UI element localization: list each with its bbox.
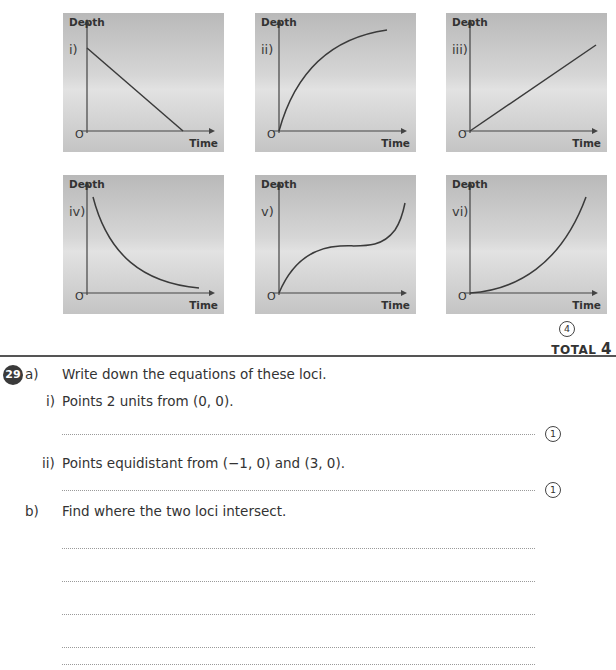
graph-label: ii) (261, 42, 273, 57)
graph-label: iv) (69, 204, 85, 219)
graph-label: i) (69, 42, 78, 57)
y-axis-label: Depth (69, 178, 105, 190)
y-axis-label: Depth (69, 16, 105, 28)
x-axis-label: Time (381, 137, 410, 149)
part-b-text: Find where the two loci intersect. (62, 503, 286, 519)
answer-line-b-1[interactable] (62, 548, 535, 549)
x-axis-label: Time (381, 299, 410, 311)
graph-panel-i: Depth i) O Time (63, 13, 224, 152)
graph-ii-plot (255, 13, 416, 152)
answer-line-b-3[interactable] (62, 614, 535, 615)
part-a-i-text: Points 2 units from (0, 0). (62, 393, 234, 409)
answer-line-b-4[interactable] (62, 647, 535, 648)
question-number-badge: 29 (3, 365, 23, 385)
origin-label: O (75, 290, 84, 303)
marks-badge-q28: 4 (559, 321, 575, 337)
graph-vi-plot (446, 175, 607, 314)
graph-panel-iii: Depth iii) O Time (446, 13, 607, 152)
origin-label: O (267, 290, 276, 303)
x-axis-label: Time (572, 137, 601, 149)
graph-iv-plot (63, 175, 224, 314)
part-a-ii-text: Points equidistant from (−1, 0) and (3, … (62, 455, 345, 471)
graph-panel-v: Depth v) O Time (255, 175, 416, 314)
graph-i-plot (63, 13, 224, 152)
y-axis-label: Depth (261, 178, 297, 190)
y-axis-label: Depth (452, 16, 488, 28)
origin-label: O (75, 128, 84, 141)
part-a-text: Write down the equations of these loci. (62, 366, 327, 382)
answer-line-b-2[interactable] (62, 581, 535, 582)
part-a-ii-label: ii) (42, 455, 55, 471)
graph-panel-ii: Depth ii) O Time (255, 13, 416, 152)
origin-label: O (267, 128, 276, 141)
section-divider (0, 355, 616, 357)
part-a-i-label: i) (46, 393, 55, 409)
graph-panel-vi: Depth vi) O Time (446, 175, 607, 314)
marks-badge-a-ii: 1 (545, 482, 561, 498)
origin-label: O (458, 128, 467, 141)
graph-v-plot (255, 175, 416, 314)
y-axis-label: Depth (261, 16, 297, 28)
graph-label: iii) (452, 42, 468, 57)
part-b-label: b) (25, 503, 39, 519)
answer-line-a-i[interactable] (62, 434, 535, 435)
part-a-label: a) (25, 366, 39, 382)
graph-iii-plot (446, 13, 607, 152)
graph-label: v) (261, 204, 274, 219)
graph-panel-iv: Depth iv) O Time (63, 175, 224, 314)
answer-line-a-ii[interactable] (62, 490, 535, 491)
x-axis-label: Time (572, 299, 601, 311)
x-axis-label: Time (189, 299, 218, 311)
y-axis-label: Depth (452, 178, 488, 190)
answer-line-b-5[interactable] (62, 664, 535, 665)
marks-badge-a-i: 1 (545, 426, 561, 442)
graph-label: vi) (452, 204, 468, 219)
origin-label: O (458, 290, 467, 303)
x-axis-label: Time (189, 137, 218, 149)
